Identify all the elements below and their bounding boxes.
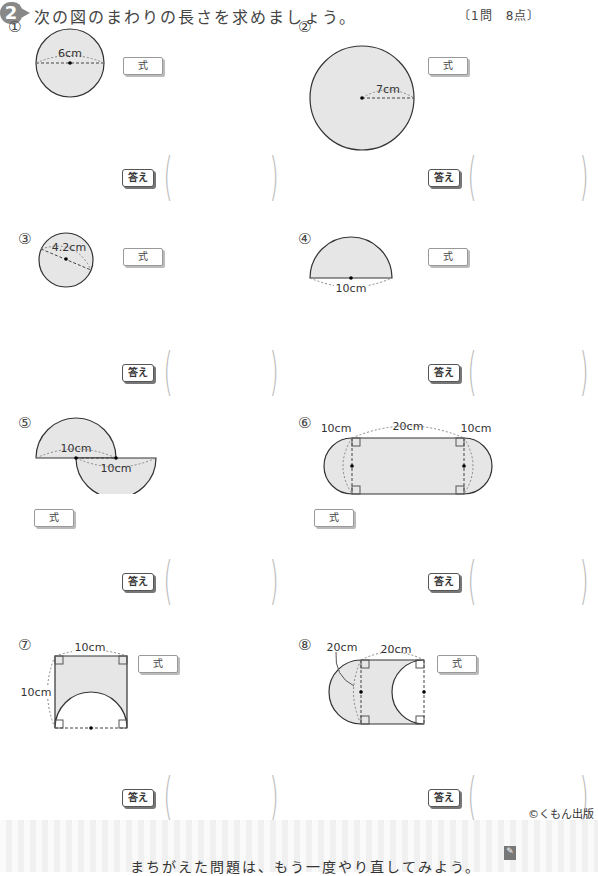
figure-rounded-rectangle: 10cm 20cm 10cm: [322, 414, 498, 496]
svg-text:10cm: 10cm: [336, 282, 367, 294]
figure-circle-diameter-6: 6cm: [30, 26, 110, 100]
formula-label-3: 式: [123, 248, 163, 266]
answer-paren-close-1: ): [270, 150, 279, 202]
question-number-6: ⑥: [298, 414, 311, 432]
formula-label-7: 式: [138, 655, 178, 673]
svg-text:10cm: 10cm: [75, 641, 106, 654]
question-number-2: ②: [298, 18, 311, 36]
answer-paren-close-6: ): [580, 554, 589, 606]
question-number-5: ⑤: [18, 414, 31, 432]
answer-paren-open-5: (: [164, 554, 173, 606]
answer-field-3[interactable]: [176, 345, 262, 395]
formula-label-6: 式: [314, 509, 354, 527]
formula-label-2: 式: [428, 57, 468, 75]
svg-text:4.2cm: 4.2cm: [52, 241, 86, 254]
svg-text:6cm: 6cm: [58, 47, 82, 60]
formula-label-8: 式: [437, 655, 477, 673]
answer-paren-close-5: ): [270, 554, 279, 606]
answer-field-5[interactable]: [176, 554, 262, 604]
answer-label-1: 答え: [122, 169, 154, 187]
answer-paren-open-7: (: [164, 770, 173, 822]
answer-paren-open-8: (: [468, 770, 477, 822]
figure-semicircle-diameter-10: 10cm: [306, 234, 396, 294]
pencil-icon: ✎: [504, 846, 516, 860]
answer-paren-open-1: (: [164, 150, 173, 202]
question-number-1: ①: [8, 18, 21, 36]
figure-circle-radius-7: 7cm: [308, 44, 416, 152]
question-number-8: ⑧: [298, 636, 311, 654]
answer-paren-close-2: ): [580, 150, 589, 202]
answer-paren-close-3: ): [270, 345, 279, 397]
svg-text:10cm: 10cm: [461, 422, 492, 435]
svg-text:7cm: 7cm: [376, 83, 400, 96]
answer-paren-open-4: (: [468, 345, 477, 397]
question-number-3: ③: [18, 230, 31, 248]
answer-field-1[interactable]: [176, 150, 262, 200]
footer-message: まちがえた問題は、もう一度やり直してみよう。: [130, 856, 481, 876]
svg-text:10cm: 10cm: [21, 686, 52, 699]
answer-label-5: 答え: [122, 573, 154, 591]
svg-text:10cm: 10cm: [61, 442, 92, 455]
svg-text:10cm: 10cm: [322, 422, 351, 435]
answer-label-6: 答え: [428, 573, 460, 591]
answer-paren-close-4: ): [580, 345, 589, 397]
answer-field-4[interactable]: [480, 345, 570, 395]
answer-paren-open-2: (: [468, 150, 477, 202]
svg-text:20cm: 20cm: [393, 420, 424, 433]
figure-circle-diameter-4-2: 4.2cm: [36, 230, 96, 290]
svg-text:10cm: 10cm: [101, 462, 132, 475]
answer-label-2: 答え: [428, 169, 460, 187]
svg-text:20cm: 20cm: [381, 643, 412, 656]
answer-paren-open-6: (: [468, 554, 477, 606]
answer-label-3: 答え: [122, 364, 154, 382]
formula-label-1: 式: [123, 57, 163, 75]
answer-paren-close-7: ): [270, 770, 279, 822]
figure-two-semicircles: 10cm 10cm: [34, 414, 158, 494]
figure-square-minus-semicircle: 10cm 10cm: [0, 636, 140, 746]
formula-label-4: 式: [428, 248, 468, 266]
answer-field-2[interactable]: [480, 150, 570, 200]
answer-label-4: 答え: [428, 364, 460, 382]
formula-label-5: 式: [34, 509, 74, 527]
answer-field-6[interactable]: [480, 554, 570, 604]
answer-label-8: 答え: [428, 789, 460, 807]
points-label: 〔1問 8点〕: [458, 6, 540, 23]
svg-text:20cm: 20cm: [327, 641, 358, 654]
answer-paren-open-3: (: [164, 345, 173, 397]
figure-semicircle-shape: 20cm 20cm: [320, 636, 440, 732]
copyright: ©くもん出版: [528, 805, 594, 821]
answer-label-7: 答え: [122, 789, 154, 807]
answer-field-7[interactable]: [176, 770, 262, 820]
